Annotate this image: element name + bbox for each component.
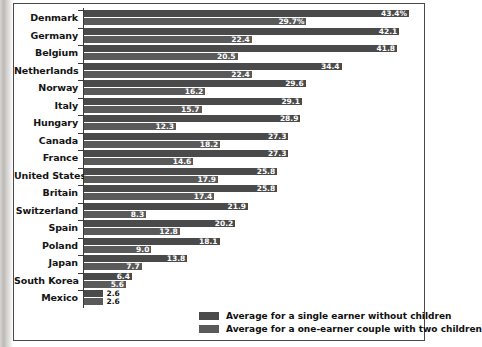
bar-value-label: 20.5 <box>217 52 236 61</box>
category-label-belgium: Belgium <box>14 47 78 58</box>
bar-value-label: 22.4 <box>231 35 250 44</box>
bar-pair: 41.820.5 <box>84 45 397 61</box>
bar-pair: 28.912.3 <box>84 115 300 131</box>
bar-value-label: 8.3 <box>131 210 144 219</box>
bar-single-germany: 42.1 <box>84 28 399 35</box>
legend-swatch-one-earner-couple <box>199 325 219 333</box>
bar-value-label: 29.6 <box>285 79 304 88</box>
bar-couple-italy: 15.7 <box>84 106 202 113</box>
category-label-britain: Britain <box>14 187 78 198</box>
bar-value-label: 27.3 <box>268 132 287 141</box>
bar-couple-japan: 7.7 <box>84 263 142 270</box>
bar-couple-belgium: 20.5 <box>84 53 238 60</box>
bar-value-label: 17.9 <box>198 175 217 184</box>
bar-value-label: 2.6 <box>106 297 119 306</box>
bar-value-label: 29.7% <box>278 17 304 26</box>
category-label-denmark: Denmark <box>14 12 78 23</box>
bar-pair: 20.212.8 <box>84 220 235 236</box>
bar-value-label: 15.7 <box>181 105 200 114</box>
bar-couple-britain: 17.4 <box>84 193 214 200</box>
bar-value-label: 29.1 <box>281 97 300 106</box>
category-label-canada: Canada <box>14 135 78 146</box>
bar-value-label: 16.2 <box>185 87 204 96</box>
legend-swatch-single-earner <box>199 312 219 320</box>
bar-value-label: 14.6 <box>173 157 192 166</box>
category-label-hungary: Hungary <box>14 117 78 128</box>
bar-value-label: 28.9 <box>280 114 299 123</box>
category-label-france: France <box>14 152 78 163</box>
bar-value-label: 12.3 <box>156 122 175 131</box>
category-label-switzerland: Switzerland <box>14 205 78 216</box>
bar-single-south-korea: 6.4 <box>84 273 132 280</box>
bar-pair: 13.87.7 <box>84 255 187 271</box>
bar-value-label: 5.6 <box>111 280 124 289</box>
bar-pair: 2.62.6 <box>84 290 103 306</box>
scanned-page-edge <box>0 0 13 347</box>
bar-value-label: 9.0 <box>136 245 149 254</box>
bar-single-norway: 29.6 <box>84 80 306 87</box>
bar-single-mexico: 2.6 <box>84 290 103 297</box>
category-label-united-states: United States <box>14 170 78 181</box>
bar-value-label: 34.4 <box>321 62 340 71</box>
category-label-spain: Spain <box>14 222 78 233</box>
bar-value-label: 43.4% <box>381 9 407 18</box>
bar-value-label: 21.9 <box>227 202 246 211</box>
bar-single-spain: 20.2 <box>84 220 235 227</box>
bar-single-united-states: 25.8 <box>84 168 277 175</box>
bar-single-hungary: 28.9 <box>84 115 300 122</box>
bar-value-label: 12.8 <box>159 227 178 236</box>
bar-couple-netherlands: 22.4 <box>84 71 252 78</box>
bar-couple-south-korea: 5.6 <box>84 281 126 288</box>
bar-single-belgium: 41.8 <box>84 45 397 52</box>
bar-pair: 29.616.2 <box>84 80 306 96</box>
bar-pair: 25.817.9 <box>84 168 277 184</box>
bar-single-canada: 27.3 <box>84 133 288 140</box>
bar-couple-spain: 12.8 <box>84 228 180 235</box>
bar-single-france: 27.3 <box>84 150 288 157</box>
category-label-japan: Japan <box>14 257 78 268</box>
bar-single-denmark: 43.4% <box>84 10 409 17</box>
bar-pair: 21.98.3 <box>84 203 248 219</box>
bar-value-label: 7.7 <box>126 262 139 271</box>
bar-pair: 27.318.2 <box>84 133 288 149</box>
legend-item: Average for a one-earner couple with two… <box>199 323 439 335</box>
bar-value-label: 22.4 <box>231 70 250 79</box>
bar-couple-mexico: 2.6 <box>84 298 103 305</box>
bar-pair: 6.45.6 <box>84 273 132 289</box>
bar-single-italy: 29.1 <box>84 98 302 105</box>
bar-pair: 43.4%29.7% <box>84 10 409 26</box>
bar-value-label: 25.8 <box>257 184 276 193</box>
category-label-norway: Norway <box>14 82 78 93</box>
bar-value-label: 18.1 <box>199 237 218 246</box>
bar-pair: 27.314.6 <box>84 150 288 166</box>
bar-value-label: 17.4 <box>194 192 213 201</box>
bar-value-label: 41.8 <box>377 44 396 53</box>
bar-value-label: 13.8 <box>167 254 186 263</box>
bar-couple-switzerland: 8.3 <box>84 211 146 218</box>
legend-label: Average for a single earner without chil… <box>226 311 451 321</box>
bar-couple-germany: 22.4 <box>84 36 252 43</box>
legend-item: Average for a single earner without chil… <box>199 310 439 322</box>
category-label-netherlands: Netherlands <box>14 65 78 76</box>
bar-single-britain: 25.8 <box>84 185 277 192</box>
bar-value-label: 20.2 <box>215 219 234 228</box>
category-label-poland: Poland <box>14 240 78 251</box>
bar-couple-hungary: 12.3 <box>84 123 176 130</box>
bar-single-switzerland: 21.9 <box>84 203 248 210</box>
bar-couple-canada: 18.2 <box>84 141 220 148</box>
bar-value-label: 27.3 <box>268 149 287 158</box>
bar-couple-poland: 9.0 <box>84 246 151 253</box>
chart-legend: Average for a single earner without chil… <box>199 310 439 336</box>
bar-single-netherlands: 34.4 <box>84 63 342 70</box>
bar-couple-united-states: 17.9 <box>84 176 218 183</box>
bar-value-label: 42.1 <box>379 27 398 36</box>
chart-frame: Denmark43.4%29.7%Germany42.122.4Belgium4… <box>13 3 425 341</box>
category-label-germany: Germany <box>14 30 78 41</box>
bar-value-label: 18.2 <box>200 140 219 149</box>
bar-pair: 18.19.0 <box>84 238 220 254</box>
legend-label: Average for a one-earner couple with two… <box>226 324 482 334</box>
bar-pair: 34.422.4 <box>84 63 342 79</box>
bar-couple-norway: 16.2 <box>84 88 205 95</box>
bar-single-poland: 18.1 <box>84 238 220 245</box>
category-label-south-korea: South Korea <box>14 275 78 286</box>
